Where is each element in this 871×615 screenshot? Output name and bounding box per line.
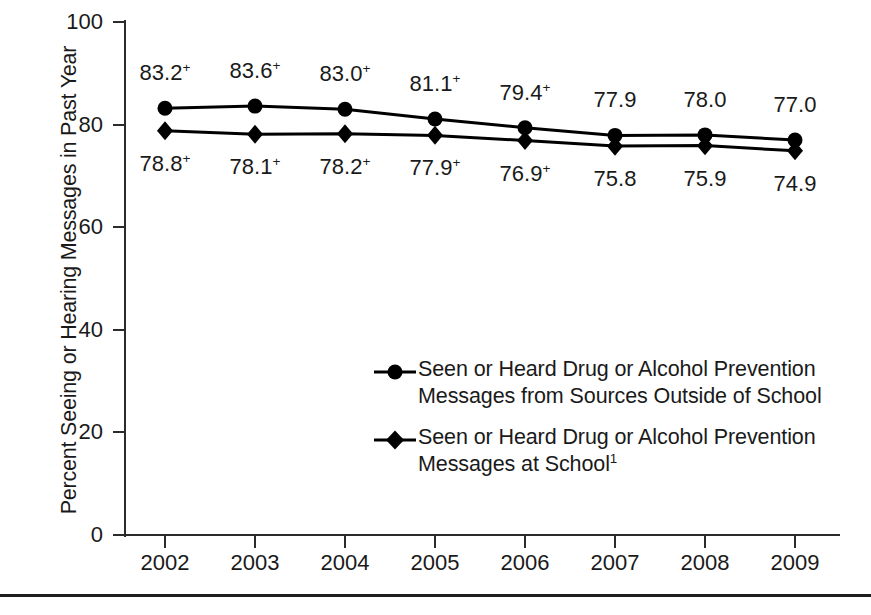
data-point-value: 77.9 — [410, 155, 453, 180]
data-point-value: 79.4 — [500, 80, 543, 105]
data-point-value: 83.2 — [140, 60, 183, 85]
data-point-value: 83.6 — [230, 58, 273, 83]
significance-marker: + — [272, 154, 280, 169]
series-marker-circle — [248, 99, 263, 114]
significance-marker: + — [272, 58, 280, 73]
legend-item: Seen or Heard Drug or Alcohol Prevention… — [372, 424, 842, 478]
significance-marker: + — [542, 79, 550, 94]
series-marker-circle — [428, 112, 443, 127]
data-point-value: 77.9 — [594, 87, 637, 112]
legend: Seen or Heard Drug or Alcohol Prevention… — [372, 356, 842, 492]
data-point-value: 78.1 — [230, 154, 273, 179]
circle-line-marker-icon — [372, 358, 418, 386]
significance-marker: + — [182, 150, 190, 165]
data-point-label: 74.9 — [735, 173, 855, 195]
data-point-value: 76.9 — [500, 161, 543, 186]
diamond-line-marker-icon — [372, 426, 418, 454]
legend-item: Seen or Heard Drug or Alcohol Prevention… — [372, 356, 842, 410]
significance-marker: + — [452, 71, 460, 86]
data-point-value: 83.0 — [320, 61, 363, 86]
legend-footnote-marker: 1 — [610, 451, 617, 466]
significance-marker: + — [542, 160, 550, 175]
series-marker-diamond — [247, 125, 263, 144]
series-marker-circle — [338, 102, 353, 117]
data-point-value: 78.2 — [320, 154, 363, 179]
footer-divider — [0, 594, 871, 597]
data-point-value: 75.8 — [594, 166, 637, 191]
data-point-value: 81.1 — [410, 71, 453, 96]
significance-marker: + — [362, 154, 370, 169]
significance-marker: + — [452, 155, 460, 170]
significance-marker: + — [182, 60, 190, 75]
legend-item-label: Seen or Heard Drug or Alcohol Prevention… — [418, 356, 822, 410]
data-point-value: 77.0 — [774, 92, 817, 117]
chart-figure: Percent Seeing or Hearing Messages in Pa… — [0, 0, 871, 615]
significance-marker: + — [362, 61, 370, 76]
series-marker-diamond — [517, 131, 533, 150]
series-marker-diamond — [427, 126, 443, 145]
data-point-value: 75.9 — [684, 166, 727, 191]
series-marker-diamond — [157, 121, 173, 140]
data-point-value: 78.8 — [140, 151, 183, 176]
legend-item-label: Seen or Heard Drug or Alcohol Prevention… — [418, 424, 816, 478]
series-marker-diamond — [337, 124, 353, 143]
series-marker-circle — [158, 101, 173, 116]
data-point-label: 77.0 — [735, 94, 855, 116]
data-point-value: 78.0 — [684, 87, 727, 112]
data-point-value: 74.9 — [774, 171, 817, 196]
